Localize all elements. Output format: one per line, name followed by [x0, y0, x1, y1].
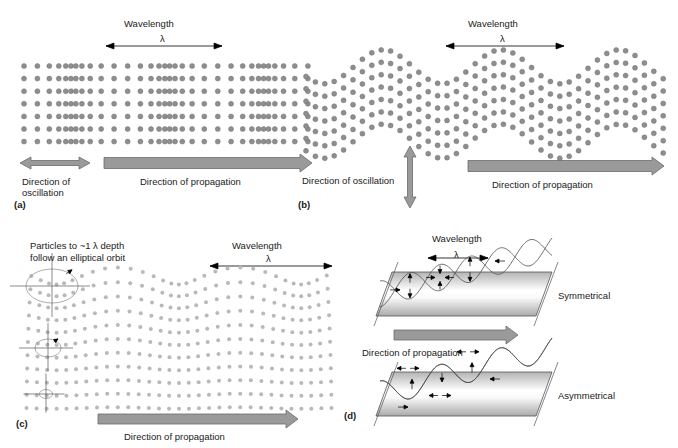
panel-b-graphic [296, 0, 678, 224]
panel-d-wavelength-title: Wavelength [432, 233, 482, 244]
panel-a-wavelength-title: Wavelength [124, 18, 174, 29]
panel-c-orbit-annotations [10, 253, 90, 413]
panel-d-asymmetrical-plate [374, 362, 558, 426]
panel-a-particles [22, 64, 311, 145]
panel-a-oscillation-arrow [20, 157, 90, 169]
panel-b-propagation-label: Direction of propagation [492, 179, 593, 190]
panel-b-wavelength-title: Wavelength [468, 18, 518, 29]
panel-d: Wavelength [340, 224, 678, 448]
panel-d-symmetrical-plate [374, 262, 558, 326]
panel-b-oscillation-arrow [404, 146, 416, 208]
panel-c-tag: (c) [16, 418, 28, 429]
panel-d-mode-label-asymmetrical: Asymmetrical [558, 390, 615, 401]
panel-c-particles [24, 266, 333, 411]
panel-d-mode-label-symmetrical: Symmetrical [558, 290, 610, 301]
panel-c-lambda: λ [266, 253, 271, 264]
panel-b-oscillation-label: Direction of oscillation [302, 175, 394, 186]
panel-d-lambda: λ [454, 249, 459, 260]
panel-a-propagation-arrow [104, 154, 312, 172]
panel-d-tag: (d) [344, 410, 356, 421]
panel-c: Particles to ~1 λ depth follow an ellipt… [0, 224, 340, 448]
panel-a-propagation-label: Direction of propagation [140, 176, 241, 187]
panel-a-tag: (a) [14, 199, 26, 210]
panel-b: Wavelength Direction of oscillation Dire… [296, 0, 678, 224]
panel-a-lambda: λ [160, 33, 165, 44]
panel-b-particles [304, 47, 666, 160]
panel-d-propagation-arrow [394, 326, 518, 344]
wave-types-figure: Wavelength Direction of oscillation Dire… [0, 0, 678, 448]
panel-a: Wavelength Direction of oscillation Dire… [0, 0, 340, 224]
panel-c-wavelength-title: Wavelength [232, 240, 282, 251]
panel-b-tag: (b) [298, 199, 310, 210]
panel-c-note-line1: Particles to ~1 λ depth [30, 240, 124, 251]
panel-a-oscillation-label: Direction of oscillation [22, 176, 70, 198]
panel-b-propagation-arrow [468, 157, 664, 175]
panel-c-note-line2: follow an elliptical orbit [30, 252, 125, 263]
panel-d-graphic [340, 224, 678, 448]
panel-c-propagation-label: Direction of propagation [124, 431, 225, 442]
panel-d-propagation-label: Direction of propagation [362, 347, 463, 358]
panel-c-propagation-arrow [98, 410, 298, 428]
panel-b-lambda: λ [500, 33, 505, 44]
